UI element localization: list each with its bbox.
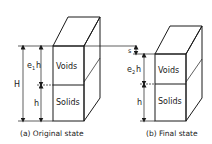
label-h-original: h	[34, 99, 39, 108]
soil-phase-diagram: H e1h h Voids Solids (a) Original state …	[0, 0, 212, 144]
label-h-final: h	[137, 98, 142, 107]
label-H: H	[14, 80, 20, 89]
label-s: s	[128, 47, 132, 55]
front-face	[53, 46, 84, 121]
label-voids-original: Voids	[56, 62, 77, 71]
label-e1h: e1h	[27, 61, 41, 71]
caption-final: (b) Final state	[146, 129, 198, 138]
final-dimensions	[133, 47, 155, 121]
top-face	[155, 26, 202, 54]
caption-original: (a) Original state	[20, 129, 84, 138]
label-solids-original: Solids	[56, 98, 80, 107]
original-dimensions	[18, 46, 53, 121]
front-face	[155, 54, 186, 121]
side-face	[84, 17, 100, 121]
label-e2h: e2h	[127, 65, 141, 75]
label-voids-final: Voids	[158, 66, 179, 75]
side-divider	[186, 59, 202, 82]
top-face	[53, 17, 100, 46]
side-face	[186, 26, 202, 121]
side-divider	[84, 58, 100, 82]
label-solids-final: Solids	[158, 97, 182, 106]
